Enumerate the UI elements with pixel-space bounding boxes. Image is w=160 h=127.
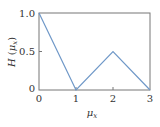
ytick-label-1: 1.0 — [19, 8, 35, 19]
chart: 1.0 0.5 0 0 1 2 3 μx H (μx) — [0, 0, 160, 127]
x-axis-label: μx — [87, 107, 98, 120]
data-line — [39, 13, 150, 90]
y-axis-label: H (μx) — [6, 37, 19, 68]
ytick-label-0: 0 — [29, 83, 35, 94]
xtick-label-1: 1 — [73, 93, 79, 104]
plot-frame — [39, 13, 150, 90]
ytick-label-05: 0.5 — [19, 46, 35, 57]
xtick-label-3: 3 — [147, 93, 153, 104]
xtick-label-2: 2 — [110, 93, 116, 104]
xtick-label-0: 0 — [36, 93, 42, 104]
